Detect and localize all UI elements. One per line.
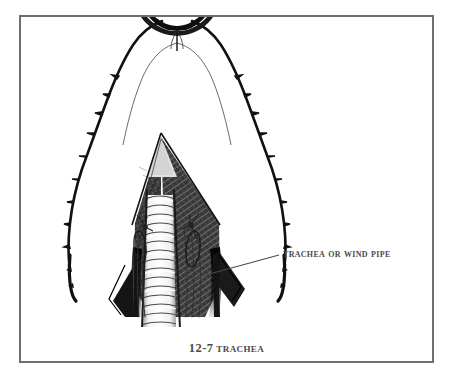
caption-title: Trachea: [216, 341, 264, 355]
trachea-drawing: [21, 17, 436, 327]
caption-number: 12-7: [189, 341, 214, 355]
anatomical-illustration: [21, 17, 436, 327]
callout-label-trachea: Trachea or Wind Pipe: [283, 248, 391, 260]
plate-root: Trachea or Wind Pipe 12-7Trachea: [0, 0, 451, 380]
plate-frame: Trachea or Wind Pipe 12-7Trachea: [19, 15, 434, 363]
plate-caption: 12-7Trachea: [21, 342, 432, 355]
